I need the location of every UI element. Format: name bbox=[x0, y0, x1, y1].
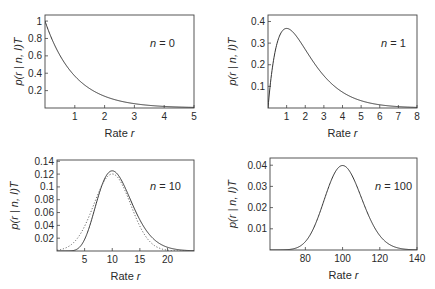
y-tick-label: 1 bbox=[36, 16, 42, 27]
y-tick-label: 0.03 bbox=[248, 181, 268, 192]
x-tick-label: 10 bbox=[107, 254, 119, 265]
y-axis-label: p(r | n, I)T bbox=[12, 36, 24, 86]
plot-frame bbox=[45, 15, 194, 108]
x-tick-label: 6 bbox=[377, 111, 383, 122]
plot-frame bbox=[270, 158, 417, 250]
x-axis-label: Rate r bbox=[329, 269, 360, 281]
n-annotation: n = 100 bbox=[375, 180, 412, 192]
y-tick-label: 0.1 bbox=[251, 81, 265, 92]
y-tick-label: 0.06 bbox=[35, 207, 55, 218]
x-tick-label: 4 bbox=[340, 111, 346, 122]
plot-frame bbox=[57, 160, 194, 251]
x-axis-label: Rate r bbox=[328, 127, 359, 139]
y-axis-label: p(r | n, I)T bbox=[8, 180, 20, 230]
y-tick-label: 0.4 bbox=[251, 16, 265, 27]
x-tick-label: 140 bbox=[409, 253, 426, 264]
gamma-curve bbox=[270, 166, 417, 251]
x-tick-label: 2 bbox=[302, 111, 308, 122]
y-tick-label: 0.3 bbox=[251, 38, 265, 49]
panel-top-right: 123456780.10.20.30.4Rate rp(r | n, I)Tn … bbox=[226, 15, 420, 139]
n-annotation: n = 0 bbox=[150, 37, 175, 49]
y-tick-label: 0.1 bbox=[40, 181, 54, 192]
x-tick-label: 5 bbox=[82, 254, 88, 265]
x-axis-label: Rate r bbox=[111, 270, 142, 282]
y-axis-label: p(r | n, I)T bbox=[226, 179, 238, 229]
x-tick-label: 2 bbox=[102, 111, 108, 122]
x-axis-label: Rate r bbox=[105, 127, 136, 139]
plot-frame bbox=[268, 15, 417, 108]
panel-bottom-right: 801001201400.010.020.030.04Rate rp(r | n… bbox=[226, 158, 426, 281]
x-tick-label: 7 bbox=[396, 111, 402, 122]
x-tick-label: 100 bbox=[334, 253, 351, 264]
n-annotation: n = 10 bbox=[150, 180, 181, 192]
x-tick-label: 4 bbox=[161, 111, 167, 122]
x-tick-label: 3 bbox=[321, 111, 327, 122]
y-tick-label: 0.8 bbox=[28, 33, 42, 44]
y-tick-label: 0.04 bbox=[248, 160, 268, 171]
x-tick-label: 80 bbox=[300, 253, 312, 264]
y-tick-label: 0.01 bbox=[248, 223, 268, 234]
x-tick-label: 5 bbox=[358, 111, 364, 122]
y-tick-label: 0.6 bbox=[28, 50, 42, 61]
x-tick-label: 5 bbox=[191, 111, 197, 122]
y-tick-label: 0.14 bbox=[35, 156, 55, 167]
x-tick-label: 1 bbox=[72, 111, 78, 122]
y-tick-label: 0.2 bbox=[251, 59, 265, 70]
gamma-curve bbox=[45, 21, 194, 107]
y-tick-label: 0.08 bbox=[35, 194, 55, 205]
n-annotation: n = 1 bbox=[381, 37, 406, 49]
panel-top-left: 123450.20.40.60.81Rate rp(r | n, I)Tn = … bbox=[12, 15, 197, 139]
y-tick-label: 0.02 bbox=[35, 233, 55, 244]
panel-bottom-left: 51015200.020.040.060.080.10.120.14Rate r… bbox=[8, 156, 194, 282]
y-axis-label: p(r | n, I)T bbox=[226, 36, 238, 86]
x-tick-label: 3 bbox=[132, 111, 138, 122]
y-tick-label: 0.2 bbox=[28, 85, 42, 96]
x-tick-label: 15 bbox=[134, 254, 146, 265]
x-tick-label: 1 bbox=[284, 111, 290, 122]
y-tick-label: 0.12 bbox=[35, 169, 55, 180]
y-tick-label: 0.04 bbox=[35, 220, 55, 231]
x-tick-label: 8 bbox=[414, 111, 420, 122]
figure-four-panels: 123450.20.40.60.81Rate rp(r | n, I)Tn = … bbox=[0, 0, 435, 289]
y-tick-label: 0.02 bbox=[248, 202, 268, 213]
y-tick-label: 0.4 bbox=[28, 68, 42, 79]
x-tick-label: 20 bbox=[162, 254, 174, 265]
x-tick-label: 120 bbox=[371, 253, 388, 264]
